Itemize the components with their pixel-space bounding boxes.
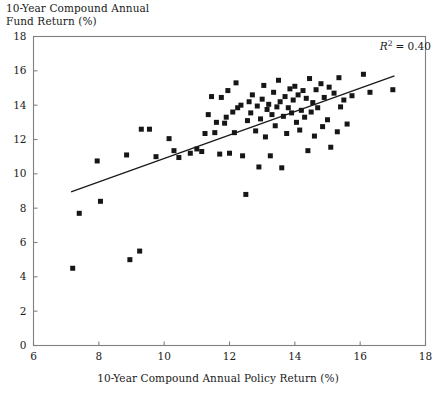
svg-text:8: 8	[20, 202, 27, 214]
data-points	[70, 72, 395, 271]
svg-text:R2= 0.40: R2= 0.40	[379, 39, 431, 53]
svg-text:14: 14	[13, 99, 27, 111]
svg-text:12: 12	[223, 350, 236, 362]
plot-frame	[34, 37, 426, 346]
scatter-plot-figure: 10-Year Compound Annual Fund Return (%) …	[0, 0, 436, 394]
svg-text:4: 4	[20, 270, 27, 282]
svg-text:6: 6	[30, 350, 37, 362]
trendline	[71, 76, 394, 192]
svg-text:16: 16	[353, 350, 367, 362]
r-squared-annotation: R2= 0.40	[379, 39, 431, 53]
svg-text:14: 14	[288, 350, 302, 362]
axis-tick-labels: 024681012141618681012141618	[13, 30, 432, 361]
svg-text:8: 8	[95, 350, 102, 362]
axis-ticks	[34, 37, 426, 346]
svg-text:12: 12	[13, 133, 26, 145]
svg-text:16: 16	[13, 64, 27, 76]
plot-canvas: 024681012141618681012141618 R2= 0.40	[0, 0, 436, 394]
svg-text:10: 10	[157, 350, 170, 362]
svg-text:18: 18	[419, 350, 432, 362]
x-axis-title: 10-Year Compound Annual Policy Return (%…	[0, 372, 436, 384]
svg-text:6: 6	[20, 236, 27, 248]
svg-text:18: 18	[13, 30, 26, 42]
svg-text:0: 0	[20, 339, 27, 351]
svg-text:10: 10	[13, 167, 26, 179]
svg-text:2: 2	[20, 305, 27, 317]
